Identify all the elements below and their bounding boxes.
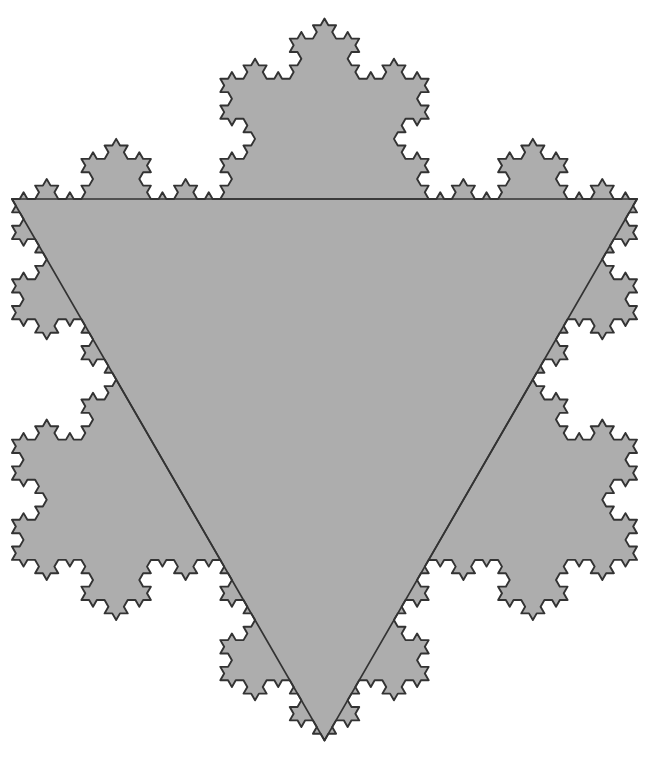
koch-snowflake-figure xyxy=(0,0,657,761)
figure-canvas xyxy=(0,0,657,761)
